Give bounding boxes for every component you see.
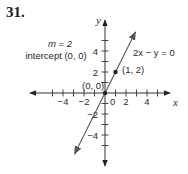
origin-label: (0, 0): [82, 80, 104, 91]
point-label: (1, 2): [122, 64, 144, 75]
x-tick-label: −2: [79, 96, 90, 107]
x-tick-label: 4: [144, 96, 149, 107]
graph: −4−202442−2−4 m = 2 intercept (0, 0) 2x …: [0, 0, 188, 174]
y-axis-label: y: [95, 14, 101, 26]
equation-label: 2x − y = 0: [133, 47, 175, 58]
x-tick-label: 2: [123, 96, 128, 107]
data-point: [103, 91, 107, 95]
y-tick-label: −4: [87, 130, 98, 141]
intercept-annotation: intercept (0, 0): [25, 50, 86, 61]
data-point: [113, 70, 117, 74]
x-axis-label: x: [172, 96, 178, 108]
x-tick-label: 0: [110, 96, 115, 107]
slope-annotation: m = 2: [48, 38, 73, 49]
y-tick-label: 2: [93, 67, 98, 78]
y-tick-label: 4: [93, 46, 98, 57]
x-tick-label: −4: [58, 96, 69, 107]
